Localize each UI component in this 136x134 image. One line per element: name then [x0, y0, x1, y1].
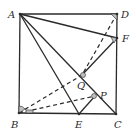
- segment-BC: [19, 113, 116, 114]
- geometry-diagram: A D F Q P B E C: [0, 0, 136, 134]
- point-C: [115, 113, 118, 116]
- segment-BQ: [19, 75, 82, 113]
- label-P: P: [99, 90, 107, 101]
- segment-DQ: [82, 14, 117, 75]
- segment-AE: [20, 14, 79, 114]
- label-F: F: [121, 33, 130, 44]
- point-D: [116, 13, 119, 16]
- point-A: [19, 13, 22, 16]
- label-D: D: [120, 9, 129, 20]
- label-E: E: [74, 119, 83, 130]
- label-A: A: [7, 9, 15, 20]
- segment-AF: [20, 14, 117, 38]
- right-angle-mark-B: [26, 110, 33, 113]
- segment-DC: [116, 14, 117, 114]
- angle-mark-Q: [81, 73, 86, 78]
- point-B: [18, 112, 21, 115]
- label-B: B: [10, 119, 18, 130]
- point-F: [116, 37, 119, 40]
- segment-FQ: [82, 38, 117, 75]
- segment-AB: [19, 14, 20, 113]
- label-Q: Q: [77, 80, 85, 91]
- angle-mark-P: [92, 94, 97, 99]
- point-E: [78, 113, 81, 116]
- label-C: C: [114, 119, 122, 130]
